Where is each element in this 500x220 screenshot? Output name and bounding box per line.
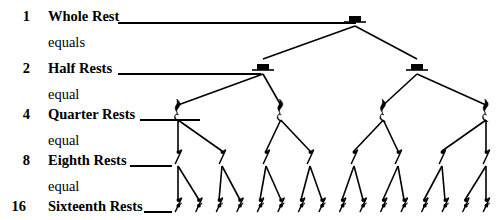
tree-branch [178,166,199,199]
rest-quarter [483,99,489,122]
rest-quarter [175,99,181,122]
tree-branch [219,166,222,199]
rest-eighth [395,149,402,164]
tree-branch [398,166,404,199]
tree-branch [417,74,486,105]
tree-branch [263,74,281,105]
tree-branch [442,166,445,199]
rest-sixteenth [196,197,203,212]
rest-eighth [439,149,446,164]
tree-branch [442,120,486,151]
rest-eighth [351,149,358,164]
tree-branch [354,120,383,151]
tree-branch [342,166,354,199]
tree-branch [281,120,310,151]
tree-branch [355,26,417,59]
rest-sixteenth [340,197,347,212]
rest-quarter [277,99,283,122]
tree-branch [383,74,417,105]
rest-sixteenth [463,197,470,212]
rest-eighth [219,149,226,164]
tree-branches [178,26,486,199]
tree-branch [178,120,222,151]
tree-branch [466,166,487,199]
tree-branch [310,166,322,199]
rest-whole [344,16,366,22]
tree-branch [222,166,240,199]
tree-branch [263,26,355,59]
rest-half [252,64,274,70]
tree-branch [178,74,263,105]
rest-eighth [263,149,270,164]
rest-sixteenth [299,197,306,212]
tree-branch [260,166,266,199]
rest-sixteenth [401,197,408,212]
rest-sixteenth [216,197,223,212]
rest-sixteenth [258,197,265,212]
rest-sixteenth [442,197,449,212]
tree-branch [301,166,310,199]
rest-sixteenth [381,197,388,212]
rest-value-diagram: 1 Whole Rest equals 2 Half Rests equal 4… [0,0,500,220]
rest-sixteenth [360,197,367,212]
rest-quarter [380,99,386,122]
tree-branch [424,166,442,199]
rest-sixteenth [237,197,244,212]
rest-sixteenth [483,197,490,212]
rest-half [406,64,428,70]
tree-branch [266,166,281,199]
rest-sixteenth [278,197,285,212]
tree-graphic [0,0,500,220]
rest-sixteenth [319,197,326,212]
rest-eighth [483,149,490,164]
rest-sixteenth [175,197,182,212]
rest-eighth [175,149,182,164]
tree-branch [383,166,398,199]
tree-branch [383,120,398,151]
rest-eighth [307,149,314,164]
tree-branch [266,120,281,151]
rest-sixteenth [422,197,429,212]
tree-branch [354,166,363,199]
